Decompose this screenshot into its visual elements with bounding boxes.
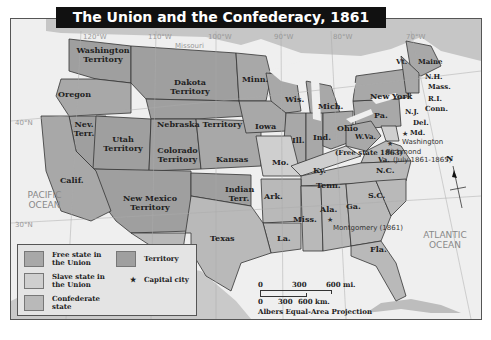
label-ill: Ill.	[292, 136, 305, 145]
label-new-york: New York	[370, 92, 412, 101]
label-tenn: Tenn.	[316, 181, 341, 190]
map-legend: Free state in the Union Slave state in t…	[17, 244, 197, 316]
capital-star-richmond: ★	[387, 140, 393, 148]
lon-label-120: 120°W	[83, 33, 107, 41]
label-nj: N.J.	[405, 107, 419, 116]
lat-label-30: 30°N	[15, 221, 33, 229]
label-washington-territory: Washington Territory	[73, 46, 133, 64]
label-ga: Ga.	[346, 202, 361, 211]
label-ind: Ind.	[313, 133, 331, 142]
label-oregon: Oregon	[58, 90, 91, 99]
label-sc: S.C.	[368, 191, 385, 200]
label-md: Md.	[410, 128, 425, 137]
label-conn: Conn.	[425, 104, 448, 113]
label-texas: Texas	[210, 234, 235, 243]
atlantic-ocean-label: ATLANTIC OCEAN	[420, 230, 470, 250]
lon-label-100: 100°W	[208, 33, 232, 41]
pacific-ocean-label: PACIFIC OCEAN	[22, 190, 67, 210]
label-maine: Maine	[418, 57, 443, 66]
lon-label-70: 70°W	[406, 33, 425, 41]
legend-swatch-territory	[116, 251, 136, 267]
legend-label-slave-state: Slave state in the Union	[52, 273, 112, 289]
legend-swatch-slave-state	[24, 273, 44, 289]
lon-label-90: 90°W	[274, 33, 293, 41]
label-indian-terr: Indian Terr.	[225, 185, 253, 203]
north-arrow-icon: N	[448, 160, 468, 214]
label-nh: N.H.	[425, 72, 442, 81]
label-utah-territory: Utah Territory	[103, 135, 143, 153]
lon-label-80: 80°W	[333, 33, 352, 41]
label-la: La.	[277, 234, 291, 243]
city-label-washington: Washington	[402, 138, 443, 146]
city-label-richmond: Richmond	[386, 148, 421, 156]
label-fla: Fla.	[370, 245, 387, 254]
label-calif: Calif.	[60, 176, 84, 185]
legend-swatch-confederate	[24, 295, 44, 311]
legend-label-territory: Territory	[144, 255, 179, 263]
missouri-river-label: Missouri	[175, 42, 204, 50]
city-label-montgomery: Montgomery (1861)	[333, 224, 403, 232]
label-nebraska-territory: Nebraska Territory	[157, 120, 242, 129]
legend-label-free-state: Free state in the Union	[52, 251, 112, 267]
scale-mi-300: 300	[292, 280, 307, 289]
label-ala: Ala.	[320, 205, 337, 214]
label-kansas: Kansas	[216, 155, 248, 164]
capital-star-montgomery: ★	[327, 216, 333, 224]
label-mo: Mo.	[272, 158, 289, 167]
label-ri: R.I.	[428, 94, 442, 103]
scale-bar: 0 300 600 mi. 0 300 600 km. Albers Equal…	[258, 280, 378, 316]
map-title: The Union and the Confederacy, 1861	[56, 7, 386, 28]
label-mich: Mich.	[318, 102, 343, 111]
label-dakota-territory: Dakota Territory	[165, 78, 215, 96]
label-wis: Wis.	[285, 95, 304, 104]
city-label-richmond-note: (July 1861-1865)	[393, 156, 451, 164]
scale-mi-0: 0	[258, 280, 263, 289]
label-ark: Ark.	[264, 192, 283, 201]
label-wva: W.Va.	[355, 132, 376, 141]
projection-label: Albers Equal-Area Projection	[258, 307, 372, 316]
label-iowa: Iowa	[255, 122, 276, 131]
label-colorado-territory: Colorado Territory	[155, 146, 200, 164]
lon-label-110: 110°W	[148, 33, 172, 41]
label-nc: N.C.	[376, 166, 395, 175]
label-ky: Ky.	[313, 166, 326, 175]
legend-swatch-free-state	[24, 251, 44, 267]
label-del: Del.	[413, 118, 429, 127]
label-mass: Mass.	[428, 82, 451, 91]
legend-label-confederate: Confederate state	[52, 295, 102, 311]
compass-north-label: N	[446, 154, 453, 163]
scale-km-600: 600 km.	[298, 297, 330, 306]
legend-label-capital: Capital city	[144, 276, 189, 284]
capital-star-icon: ★	[130, 276, 136, 284]
label-pa: Pa.	[374, 111, 388, 120]
label-miss: Miss.	[293, 215, 317, 224]
scale-mi-600: 600 mi.	[326, 280, 356, 289]
scale-km-300: 300	[278, 297, 293, 306]
label-nev-terr: Nev. Terr.	[69, 120, 99, 138]
label-vt: Vt.	[396, 57, 407, 66]
label-minn: Minn.	[242, 75, 268, 84]
scale-km-0: 0	[258, 297, 263, 306]
lat-label-40: 40°N	[15, 119, 33, 127]
capital-star-washington: ★	[402, 130, 408, 138]
label-va: Va.	[378, 155, 390, 164]
label-new-mexico-territory: New Mexico Territory	[120, 194, 180, 212]
